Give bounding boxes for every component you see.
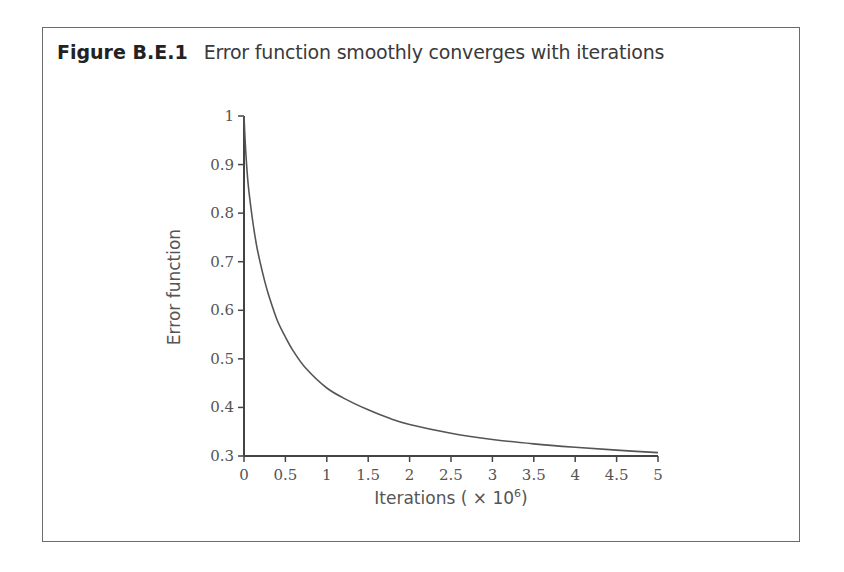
x-axis-label: Iterations ( × 106) — [374, 487, 527, 508]
error-curve — [244, 116, 658, 453]
x-tick-label: 2 — [405, 466, 415, 484]
y-tick-label: 0.9 — [210, 156, 234, 174]
x-tick-label: 2.5 — [439, 466, 463, 484]
x-tick-label: 0.5 — [273, 466, 297, 484]
x-tick-label: 0 — [239, 466, 249, 484]
y-tick-label: 0.5 — [210, 350, 234, 368]
x-axis-ticks: 00.511.522.533.544.55 — [239, 456, 663, 484]
y-tick-label: 1 — [224, 107, 234, 125]
x-tick-label: 5 — [653, 466, 663, 484]
y-tick-label: 0.7 — [210, 253, 234, 271]
y-tick-label: 0.3 — [210, 447, 234, 465]
y-tick-label: 0.4 — [210, 398, 234, 416]
x-tick-label: 3.5 — [522, 466, 546, 484]
y-tick-label: 0.8 — [210, 204, 234, 222]
y-axis-label: Error function — [164, 229, 184, 345]
x-tick-label: 1 — [322, 466, 332, 484]
x-tick-label: 4 — [570, 466, 580, 484]
x-tick-label: 3 — [488, 466, 498, 484]
line-chart: 0.30.40.50.60.70.80.91 00.511.522.533.54… — [0, 0, 844, 572]
x-tick-label: 4.5 — [605, 466, 629, 484]
y-tick-label: 0.6 — [210, 301, 234, 319]
x-tick-label: 1.5 — [356, 466, 380, 484]
y-axis-ticks: 0.30.40.50.60.70.80.91 — [210, 107, 244, 465]
